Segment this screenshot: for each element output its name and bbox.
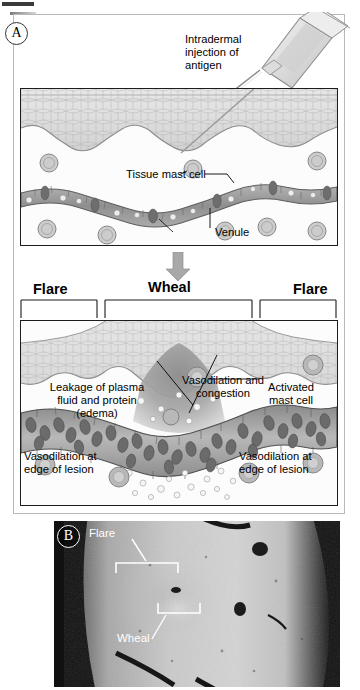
label-tissue-mast-cell: Tissue mast cell [126, 168, 206, 181]
leader-line-mast-cell [205, 168, 235, 186]
label-intradermal-injection: Intradermal injection of antigen [185, 33, 280, 72]
region-header-flare-left: Flare [33, 283, 68, 296]
photo-label-wheal: Wheal [117, 632, 150, 644]
skin-cross-section-normal [20, 88, 338, 246]
label-leakage-of-plasma: Leakage of plasma fluid and protein (ede… [38, 381, 156, 420]
panel-b-photograph [54, 521, 340, 687]
down-arrow-icon [165, 252, 191, 282]
panel-a-letter: A [5, 22, 28, 45]
skin-normal-svg [21, 89, 337, 245]
label-vasodilation-edge-right: Vasodilation at edge of lesion [239, 450, 339, 476]
figure-wheal-flare: A [0, 0, 360, 690]
label-activated-mast-cell: Activated mast cell [252, 381, 330, 407]
region-header-wheal: Wheal [148, 281, 191, 294]
photo-label-flare: Flare [89, 527, 115, 539]
panel-b-letter: B [57, 525, 80, 548]
region-header-flare-right: Flare [293, 283, 328, 296]
region-brackets [20, 298, 338, 318]
photo-skin-svg [54, 521, 340, 687]
page-artifact-bar [2, 2, 34, 6]
label-venule: Venule [215, 226, 249, 239]
label-vasodilation-edge-left: Vasodilation at edge of lesion [24, 450, 119, 476]
